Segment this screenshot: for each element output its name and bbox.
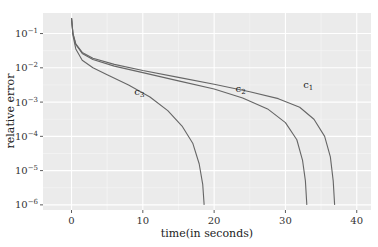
relative-error-chart: c1c2c3 010203040 10−110−210−310−410−510−… xyxy=(0,0,378,247)
plot-panel xyxy=(43,13,371,210)
y-axis: 10−110−210−310−410−510−6 xyxy=(15,27,43,210)
y-tick-label: 10−1 xyxy=(15,27,38,39)
x-tick-label: 30 xyxy=(279,215,292,226)
x-axis-title: time(in seconds) xyxy=(161,227,253,240)
y-tick-label: 10−4 xyxy=(15,130,39,142)
x-tick-label: 20 xyxy=(208,215,221,226)
x-tick-label: 0 xyxy=(68,215,74,226)
y-axis-title: relative error xyxy=(4,73,17,149)
y-tick-label: 10−6 xyxy=(15,198,39,210)
x-axis: 010203040 xyxy=(68,210,363,226)
y-tick-label: 10−2 xyxy=(15,61,38,73)
y-tick-label: 10−3 xyxy=(15,96,38,108)
x-tick-label: 10 xyxy=(136,215,149,226)
y-tick-label: 10−5 xyxy=(15,164,38,176)
x-tick-label: 40 xyxy=(350,215,363,226)
